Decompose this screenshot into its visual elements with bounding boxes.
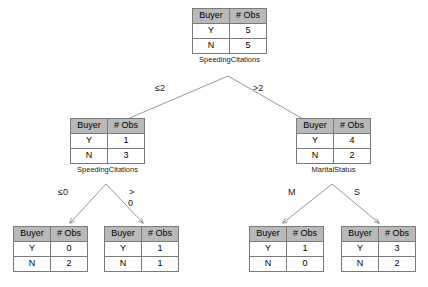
- node-split-label-right: MaritalStatus: [296, 166, 371, 174]
- node-table-leaf1: Buyer # Obs Y 0 N 2: [13, 226, 88, 272]
- table-header-row: Buyer # Obs: [342, 227, 416, 242]
- column-header-obs: # Obs: [142, 227, 179, 242]
- node-table-root: Buyer # Obs Y 5 N 5: [192, 8, 267, 54]
- table-row: N 2: [14, 257, 88, 272]
- node-split-label-root: SpeedingCitations: [192, 56, 267, 64]
- cell-buyer-n: N: [105, 257, 142, 272]
- cell-obs-y: 1: [287, 242, 324, 257]
- tree-node-left[interactable]: Buyer # Obs Y 1 N 3 SpeedingCitations: [70, 118, 145, 174]
- cell-buyer-y: Y: [250, 242, 287, 257]
- column-header-buyer: Buyer: [14, 227, 51, 242]
- table-row: N 2: [342, 257, 416, 272]
- edge-root-to-right: [228, 76, 310, 123]
- decision-tree-diagram: Buyer # Obs Y 5 N 5 SpeedingCitations Bu…: [0, 0, 428, 287]
- cell-buyer-y: Y: [71, 134, 108, 149]
- column-header-obs: # Obs: [230, 9, 267, 24]
- node-table-right: Buyer # Obs Y 4 N 2: [296, 118, 371, 164]
- column-header-buyer: Buyer: [342, 227, 379, 242]
- edge-label-root-right: >2: [253, 84, 263, 93]
- edge-left-to-leaf2: [106, 184, 143, 223]
- cell-buyer-y: Y: [105, 242, 142, 257]
- cell-buyer-n: N: [342, 257, 379, 272]
- cell-buyer-n: N: [71, 149, 108, 164]
- tree-node-leaf4[interactable]: Buyer # Obs Y 3 N 2: [341, 226, 416, 272]
- tree-node-leaf1[interactable]: Buyer # Obs Y 0 N 2: [13, 226, 88, 272]
- column-header-buyer: Buyer: [105, 227, 142, 242]
- node-table-leaf3: Buyer # Obs Y 1 N 0: [249, 226, 324, 272]
- cell-obs-y: 4: [334, 134, 371, 149]
- table-header-row: Buyer # Obs: [250, 227, 324, 242]
- column-header-buyer: Buyer: [250, 227, 287, 242]
- cell-obs-n: 2: [334, 149, 371, 164]
- cell-buyer-n: N: [297, 149, 334, 164]
- column-header-obs: # Obs: [379, 227, 416, 242]
- cell-obs-y: 5: [230, 24, 267, 39]
- cell-obs-n: 5: [230, 39, 267, 54]
- table-row: Y 4: [297, 134, 371, 149]
- cell-obs-y: 0: [51, 242, 88, 257]
- table-row: Y 1: [105, 242, 179, 257]
- cell-obs-n: 1: [142, 257, 179, 272]
- table-row: N 0: [250, 257, 324, 272]
- cell-buyer-n: N: [193, 39, 230, 54]
- tree-node-right[interactable]: Buyer # Obs Y 4 N 2 MaritalStatus: [296, 118, 371, 174]
- edge-label-root-left: ≤2: [155, 84, 165, 93]
- tree-node-root[interactable]: Buyer # Obs Y 5 N 5 SpeedingCitations: [192, 8, 267, 64]
- table-row: N 5: [193, 39, 267, 54]
- table-header-row: Buyer # Obs: [193, 9, 267, 24]
- edge-label-left-right-line1: >: [129, 188, 134, 197]
- cell-obs-n: 0: [287, 257, 324, 272]
- tree-node-leaf2[interactable]: Buyer # Obs Y 1 N 1: [104, 226, 179, 272]
- tree-node-leaf3[interactable]: Buyer # Obs Y 1 N 0: [249, 226, 324, 272]
- cell-obs-n: 2: [51, 257, 88, 272]
- cell-obs-n: 3: [108, 149, 145, 164]
- edge-root-to-left: [118, 76, 228, 123]
- cell-obs-n: 2: [379, 257, 416, 272]
- node-table-leaf4: Buyer # Obs Y 3 N 2: [341, 226, 416, 272]
- cell-buyer-n: N: [14, 257, 51, 272]
- column-header-obs: # Obs: [334, 119, 371, 134]
- table-header-row: Buyer # Obs: [297, 119, 371, 134]
- node-split-label-left: SpeedingCitations: [70, 166, 145, 174]
- node-table-left: Buyer # Obs Y 1 N 3: [70, 118, 145, 164]
- cell-buyer-n: N: [250, 257, 287, 272]
- column-header-buyer: Buyer: [193, 9, 230, 24]
- cell-buyer-y: Y: [14, 242, 51, 257]
- edge-label-left-right-line2: 0: [128, 199, 133, 208]
- column-header-obs: # Obs: [108, 119, 145, 134]
- column-header-obs: # Obs: [51, 227, 88, 242]
- table-row: Y 1: [71, 134, 145, 149]
- table-row: Y 0: [14, 242, 88, 257]
- cell-buyer-y: Y: [342, 242, 379, 257]
- edge-label-right-left: M: [288, 188, 296, 197]
- edge-label-right-right: S: [354, 188, 360, 197]
- edge-label-left-left: ≤0: [58, 188, 68, 197]
- cell-buyer-y: Y: [297, 134, 334, 149]
- table-row: Y 1: [250, 242, 324, 257]
- node-table-leaf2: Buyer # Obs Y 1 N 1: [104, 226, 179, 272]
- table-row: N 1: [105, 257, 179, 272]
- cell-obs-y: 1: [108, 134, 145, 149]
- table-header-row: Buyer # Obs: [14, 227, 88, 242]
- edge-left-to-leaf1: [70, 184, 106, 223]
- table-row: N 2: [297, 149, 371, 164]
- table-row: Y 3: [342, 242, 416, 257]
- column-header-buyer: Buyer: [71, 119, 108, 134]
- cell-buyer-y: Y: [193, 24, 230, 39]
- table-header-row: Buyer # Obs: [105, 227, 179, 242]
- table-row: Y 5: [193, 24, 267, 39]
- column-header-buyer: Buyer: [297, 119, 334, 134]
- table-row: N 3: [71, 149, 145, 164]
- table-header-row: Buyer # Obs: [71, 119, 145, 134]
- column-header-obs: # Obs: [287, 227, 324, 242]
- cell-obs-y: 1: [142, 242, 179, 257]
- cell-obs-y: 3: [379, 242, 416, 257]
